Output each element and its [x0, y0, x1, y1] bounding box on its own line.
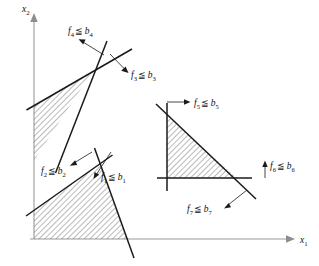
constraint-label-f7: f7≦b7	[187, 204, 212, 216]
pointer-line-f3	[110, 54, 125, 69]
constraint-label-f2: f2≦b2	[41, 166, 66, 178]
constraint-label-f1: f1≦b1	[101, 172, 126, 184]
pointer-line-f2	[74, 152, 92, 163]
constraint-label-f3: f3≦b3	[131, 70, 156, 82]
pointer-head-f3	[121, 67, 128, 73]
constraint-label-f5: f5≦b5	[194, 98, 219, 110]
pointer-head-f5	[184, 99, 191, 104]
region-upper-left-wedge	[34, 72, 92, 161]
x-axis-label: x1	[299, 235, 308, 247]
constraint-label-f4: f4≦b4	[68, 26, 93, 38]
pointer-line-f4	[83, 42, 104, 55]
figure-root: x2 x1 f4≦b4 f3≦b3 f2≦b2 f1≦b1 f5≦b5 f6≦b…	[0, 0, 319, 266]
y-axis-label: x2	[21, 4, 30, 16]
y-axis-label-sub: 2	[26, 9, 30, 16]
x-axis-label-sub: 1	[304, 240, 307, 247]
constraint-line-f3	[27, 49, 133, 110]
pointer-head-f6	[262, 161, 267, 168]
pointer-head-f4	[79, 39, 86, 44]
x-axis-arrowhead	[286, 235, 295, 242]
pointer-line-f7	[228, 190, 247, 205]
pointer-head-f2	[70, 160, 77, 166]
y-axis-arrowhead	[30, 13, 37, 22]
constraint-label-f6: f6≦b6	[270, 161, 295, 173]
constraint-regions-figure: x2 x1 f4≦b4 f3≦b3 f2≦b2 f1≦b1 f5≦b5 f6≦b…	[0, 0, 319, 266]
